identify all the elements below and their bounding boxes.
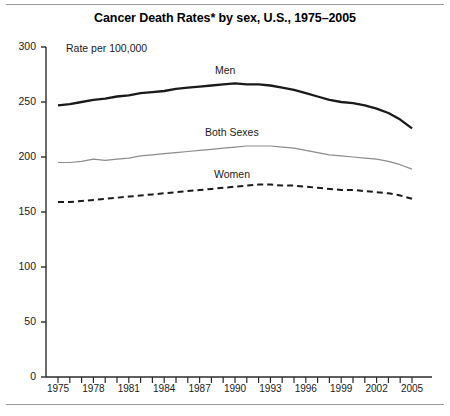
y-tick-label: 300	[2, 40, 36, 52]
x-tick-label: 1978	[73, 383, 113, 394]
x-tick-label: 1999	[321, 383, 361, 394]
x-tick-label: 1981	[109, 383, 149, 394]
x-tick-label: 2005	[392, 383, 432, 394]
y-tick-label: 100	[2, 260, 36, 272]
y-tick-label: 250	[2, 95, 36, 107]
series-line-men	[58, 83, 412, 128]
x-tick-label: 1990	[215, 383, 255, 394]
series-line-both-sexes	[58, 146, 412, 169]
y-tick-label: 200	[2, 150, 36, 162]
series-label-both-sexes: Both Sexes	[205, 126, 259, 138]
x-tick-label: 1993	[250, 383, 290, 394]
series-line-women	[58, 185, 412, 203]
plot-svg	[0, 0, 450, 416]
chart-figure: Cancer Death Rates* by sex, U.S., 1975–2…	[0, 0, 450, 416]
series-label-men: Men	[215, 64, 235, 76]
y-tick-label: 0	[2, 370, 36, 382]
y-tick-label: 50	[2, 315, 36, 327]
plot-area: Rate per 100,000 050100150200250300 1975…	[0, 0, 450, 416]
x-tick-label: 1984	[144, 383, 184, 394]
x-tick-label: 2002	[357, 383, 397, 394]
series-label-women: Women	[214, 168, 250, 180]
x-tick-label: 1987	[180, 383, 220, 394]
x-tick-label: 1996	[286, 383, 326, 394]
y-tick-label: 150	[2, 205, 36, 217]
x-tick-label: 1975	[38, 383, 78, 394]
y-axis-unit-label: Rate per 100,000	[66, 42, 147, 54]
